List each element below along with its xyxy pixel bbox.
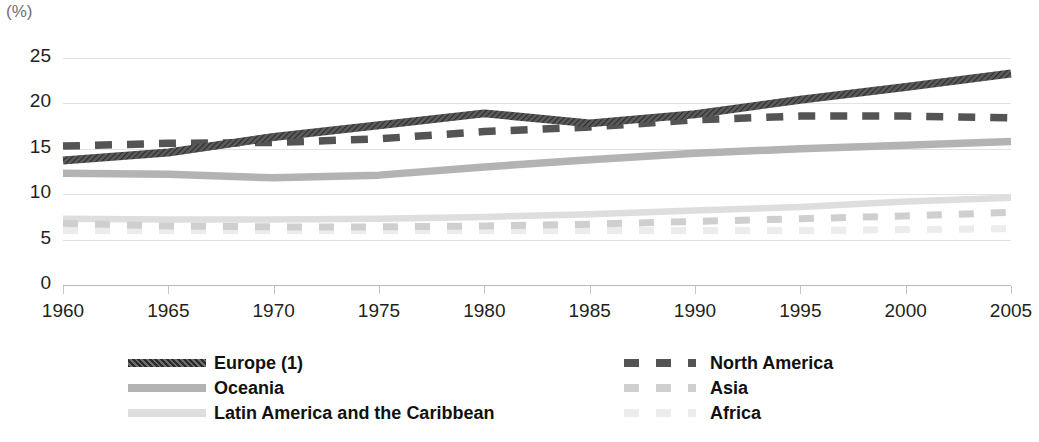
y-tick-label-15: 15: [6, 136, 51, 158]
x-tick-mark-1965: [168, 286, 169, 294]
legend-swatch-africa-icon: [624, 409, 696, 417]
x-tick-mark-1990: [695, 286, 696, 294]
legend-label-europe: Europe (1): [214, 352, 303, 374]
chart-container: (%) 0510152025 1960196519701975198019851…: [0, 0, 1039, 442]
y-tick-label-5: 5: [6, 227, 51, 249]
x-tick-label-1985: 1985: [550, 300, 630, 322]
x-tick-label-1995: 1995: [760, 300, 840, 322]
y-axis-unit-label: (%): [6, 2, 32, 22]
legend-label-north_america: North America: [710, 352, 833, 374]
x-tick-mark-2005: [1011, 286, 1012, 294]
x-tick-mark-1995: [800, 286, 801, 294]
plot-area: [63, 58, 1011, 285]
legend-label-asia: Asia: [710, 377, 748, 399]
series-lines: [63, 58, 1011, 285]
x-tick-label-1980: 1980: [444, 300, 524, 322]
legend-label-oceania: Oceania: [214, 377, 284, 399]
legend-column-right: North AmericaAsiaAfrica: [624, 352, 833, 427]
x-tick-mark-1970: [274, 286, 275, 294]
legend-item-africa[interactable]: Africa: [624, 402, 833, 424]
legend-item-latin_america[interactable]: Latin America and the Caribbean: [128, 402, 494, 424]
x-tick-mark-1980: [484, 286, 485, 294]
legend-label-africa: Africa: [710, 402, 761, 424]
x-tick-label-1990: 1990: [655, 300, 735, 322]
x-tick-label-1975: 1975: [339, 300, 419, 322]
legend-item-north_america[interactable]: North America: [624, 352, 833, 374]
legend-item-europe[interactable]: Europe (1): [128, 352, 494, 374]
x-tick-mark-1975: [379, 286, 380, 294]
y-tick-label-20: 20: [6, 90, 51, 112]
chart-legend: Europe (1)OceaniaLatin America and the C…: [0, 352, 1039, 442]
y-tick-label-0: 0: [6, 272, 51, 294]
x-axis-line: [63, 285, 1011, 286]
legend-swatch-oceania-icon: [128, 384, 206, 392]
x-tick-mark-1985: [590, 286, 591, 294]
legend-label-latin_america: Latin America and the Caribbean: [214, 402, 494, 424]
legend-item-oceania[interactable]: Oceania: [128, 377, 494, 399]
x-tick-label-1960: 1960: [23, 300, 103, 322]
y-tick-label-10: 10: [6, 181, 51, 203]
legend-swatch-north_america-icon: [624, 359, 696, 367]
x-tick-mark-2000: [906, 286, 907, 294]
y-tick-label-25: 25: [6, 45, 51, 67]
x-tick-label-1970: 1970: [234, 300, 314, 322]
x-tick-label-2005: 2005: [971, 300, 1039, 322]
legend-column-left: Europe (1)OceaniaLatin America and the C…: [128, 352, 494, 427]
x-tick-label-2000: 2000: [866, 300, 946, 322]
legend-swatch-asia-icon: [624, 384, 696, 392]
x-tick-label-1965: 1965: [128, 300, 208, 322]
legend-item-asia[interactable]: Asia: [624, 377, 833, 399]
x-tick-mark-1960: [63, 286, 64, 294]
legend-swatch-latin_america-icon: [128, 409, 206, 417]
legend-swatch-europe-icon: [128, 359, 206, 367]
